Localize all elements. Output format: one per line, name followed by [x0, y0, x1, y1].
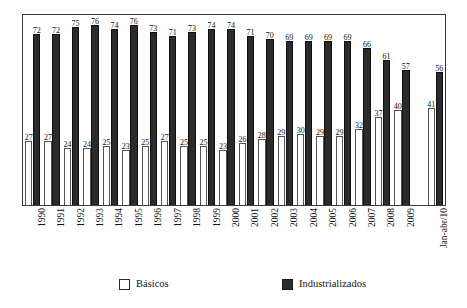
- bar-value-label: 73: [149, 24, 157, 33]
- bar-industrializados: 57: [402, 70, 409, 205]
- bar-industrializados: 74: [208, 29, 215, 205]
- bar-value-label: 69: [344, 33, 352, 42]
- legend-entry-industrializados: Industrializados: [282, 276, 366, 292]
- bar-value-label: 66: [363, 40, 371, 49]
- bar-value-label: 41: [427, 100, 435, 109]
- bar-value-label: 70: [266, 31, 274, 40]
- bar-basicos: 24: [64, 148, 71, 205]
- bar-industrializados: 72: [33, 34, 40, 205]
- bar-industrializados: 74: [111, 29, 118, 205]
- bar-group: 2374: [217, 15, 236, 205]
- x-tick-label: 2002: [270, 208, 280, 227]
- bar-industrializados: 69: [286, 41, 293, 205]
- bar-value-label: 57: [402, 62, 410, 71]
- chart-legend: Básicos Industrializados: [0, 276, 467, 298]
- bar-group: 3069: [295, 15, 314, 205]
- bar-value-label: 25: [141, 138, 149, 147]
- bar-basicos: 37: [375, 117, 382, 205]
- bar-value-label: 32: [355, 121, 363, 130]
- bar-industrializados: 69: [324, 41, 331, 205]
- bar-industrializados: 66: [363, 48, 370, 205]
- bar-group: 2376: [120, 15, 139, 205]
- bar-industrializados: 61: [383, 60, 390, 205]
- bar-industrializados: 73: [150, 32, 157, 205]
- bar-group: 2475: [62, 15, 81, 205]
- bar-basicos: 28: [258, 139, 265, 206]
- legend-label-industrializados: Industrializados: [299, 278, 366, 290]
- bar-value-label: 23: [219, 142, 227, 151]
- x-tick-label: 2004: [309, 208, 319, 227]
- x-tick-label: 1990: [37, 208, 47, 227]
- bar-group: 2671: [237, 15, 256, 205]
- bar-value-label: 76: [130, 17, 138, 26]
- x-tick-label: 2007: [367, 208, 377, 227]
- x-tick-label: 1994: [114, 208, 124, 227]
- bar-basicos: 27: [25, 141, 32, 205]
- x-tick-label: 2008: [386, 208, 396, 227]
- bar-value-label: 74: [208, 21, 216, 30]
- bar-group: 2574: [198, 15, 217, 205]
- bar-value-label: 25: [200, 138, 208, 147]
- bar-value-label: 37: [374, 109, 382, 118]
- bar-group: 2969: [314, 15, 333, 205]
- bar-basicos: 25: [200, 146, 207, 205]
- bar-industrializados: 71: [169, 36, 176, 205]
- bar-value-label: 69: [285, 33, 293, 42]
- bar-value-label: 27: [161, 133, 169, 142]
- bar-group: 2870: [256, 15, 275, 205]
- bar-value-label: 27: [44, 133, 52, 142]
- x-tick-label: 1996: [153, 208, 163, 227]
- bar-basicos: 25: [180, 146, 187, 205]
- bar-group: 2772: [42, 15, 61, 205]
- bar-industrializados: 72: [52, 34, 59, 205]
- bar-value-label: 40: [394, 102, 402, 111]
- plot-area: 2772277224752476257423762573277125732574…: [23, 15, 445, 205]
- bar-value-label: 25: [102, 138, 110, 147]
- bar-value-label: 29: [277, 128, 285, 137]
- bar-group: 2476: [81, 15, 100, 205]
- legend-swatch-basicos-icon: [119, 279, 130, 290]
- bar-group: 4156: [426, 15, 445, 205]
- bar-value-label: 74: [227, 21, 235, 30]
- bar-basicos: 23: [219, 150, 226, 205]
- bar-value-label: 28: [258, 131, 266, 140]
- x-tick-label: 1993: [95, 208, 105, 227]
- x-axis-tick-labels: 1990199119921993199419951996199719981999…: [23, 208, 445, 266]
- x-tick-label: 1992: [76, 208, 86, 227]
- x-tick-label: 1998: [192, 208, 202, 227]
- bar-value-label: 69: [305, 33, 313, 42]
- bar-basicos: 23: [122, 150, 129, 205]
- legend-entry-basicos: Básicos: [119, 276, 169, 292]
- bar-industrializados: 69: [305, 41, 312, 205]
- bar-group: 3761: [373, 15, 392, 205]
- bar-group: 4057: [392, 15, 411, 205]
- legend-swatch-industrializados-icon: [282, 279, 293, 290]
- bar-value-label: 25: [180, 138, 188, 147]
- bar-value-label: 24: [64, 140, 72, 149]
- bar-industrializados: 76: [91, 25, 98, 206]
- bar-value-label: 71: [246, 28, 254, 37]
- bar-group: 3266: [353, 15, 372, 205]
- bar-value-label: 27: [25, 133, 33, 142]
- bar-industrializados: 71: [247, 36, 254, 205]
- bar-basicos: 29: [316, 136, 323, 205]
- bar-value-label: 75: [72, 19, 80, 28]
- bar-industrializados: 69: [344, 41, 351, 205]
- bar-chart: 2772277224752476257423762573277125732574…: [0, 0, 467, 308]
- bar-basicos: 30: [297, 134, 304, 205]
- bar-value-label: 61: [382, 52, 390, 61]
- bar-value-label: 23: [122, 142, 130, 151]
- bar-basicos: 25: [103, 146, 110, 205]
- bar-group: 2573: [140, 15, 159, 205]
- bar-value-label: 29: [336, 128, 344, 137]
- legend-label-basicos: Básicos: [136, 278, 169, 290]
- bar-basicos: 26: [239, 143, 246, 205]
- bar-value-label: 72: [33, 26, 41, 35]
- x-tick-label: 2006: [348, 208, 358, 227]
- x-tick-label: Jan-abr/10: [439, 208, 449, 248]
- x-tick-label: 1991: [56, 208, 66, 227]
- bar-group: 2969: [276, 15, 295, 205]
- bar-basicos: 40: [394, 110, 401, 205]
- bar-basicos: 27: [161, 141, 168, 205]
- bar-group: 2969: [334, 15, 353, 205]
